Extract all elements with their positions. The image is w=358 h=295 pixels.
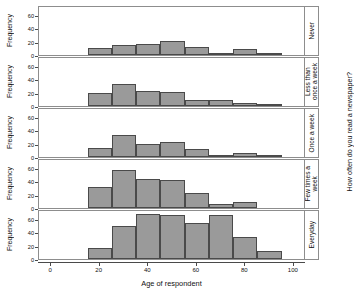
- x-axis-tick: [293, 262, 294, 266]
- y-axis-tick-label: 20: [28, 91, 34, 97]
- x-axis: 020406080100: [38, 262, 305, 274]
- y-axis-title: Frequency: [3, 210, 15, 260]
- facet-strip-everyday: Everyday: [305, 210, 319, 260]
- histogram-bar: [233, 153, 257, 157]
- y-axis-tick-label: 60: [28, 115, 34, 121]
- histogram-bar: [209, 100, 233, 106]
- facet-strip-label: Never: [308, 22, 315, 40]
- histogram-bar: [112, 135, 136, 157]
- histogram-bar: [136, 44, 160, 55]
- histogram-bar: [185, 100, 209, 106]
- histogram-bar: [88, 93, 112, 106]
- histogram-bar: [233, 103, 257, 106]
- histogram-bar: [112, 226, 136, 259]
- y-axis-title-text: Frequency: [6, 65, 13, 98]
- y-axis-tick-label: 20: [28, 142, 34, 148]
- x-axis-title: Age of respondent: [38, 279, 305, 288]
- y-axis-tick-label: 40: [28, 26, 34, 32]
- x-axis-tick-label: 80: [241, 267, 248, 273]
- histogram-bar: [160, 180, 184, 208]
- y-axis-title-text: Frequency: [6, 14, 13, 47]
- x-axis-tick: [99, 262, 100, 266]
- x-axis-tick-label: 0: [48, 267, 51, 273]
- panel-once-a-week: [38, 108, 305, 158]
- histogram-bar: [233, 202, 257, 208]
- facet-strip-label: Once a week: [308, 114, 315, 152]
- y-axis-title: Frequency: [3, 159, 15, 209]
- panel-few-times-a-week: [38, 159, 305, 209]
- plot-area: [39, 109, 304, 157]
- facet-strip-label: Few times a week: [305, 166, 319, 202]
- facet-strip-less-than-once-a-week: Less than once a week: [305, 57, 319, 107]
- histogram-bar: [160, 41, 184, 55]
- x-axis-tick-label: 20: [95, 267, 102, 273]
- histogram-bar: [185, 193, 209, 208]
- histogram-bar: [160, 215, 184, 259]
- histogram-bar: [136, 91, 160, 106]
- y-axis-tick-label: 60: [28, 166, 34, 172]
- y-axis-title: Frequency: [3, 6, 15, 56]
- histogram-bar: [112, 170, 136, 208]
- histogram-bar: [209, 53, 233, 55]
- panel-never: [38, 6, 305, 56]
- y-axis: 0204060: [24, 108, 38, 158]
- histogram-bar: [185, 47, 209, 55]
- panel-everyday: [38, 210, 305, 260]
- y-axis: 0204060: [24, 6, 38, 56]
- histogram-bar: [209, 215, 233, 259]
- histogram-bar: [112, 84, 136, 106]
- facet-strip-once-a-week: Once a week: [305, 108, 319, 158]
- histogram-bar: [88, 148, 112, 157]
- x-axis-tick-label: 60: [192, 267, 199, 273]
- x-axis-tick: [244, 262, 245, 266]
- histogram-bar: [112, 45, 136, 55]
- histogram-bar: [88, 187, 112, 208]
- y-axis-tick-label: 0: [31, 257, 34, 263]
- x-axis-tick: [147, 262, 148, 266]
- histogram-bar: [185, 223, 209, 259]
- histogram-bar: [160, 142, 184, 157]
- x-axis-tick: [196, 262, 197, 266]
- histogram-bar: [88, 48, 112, 55]
- facet-strip-title: How often do you read a newspaper?: [343, 6, 356, 258]
- x-axis-line: [38, 262, 305, 263]
- y-axis-tick-label: 60: [28, 13, 34, 19]
- y-axis-tick-label: 20: [28, 40, 34, 46]
- histogram-bar: [257, 104, 281, 106]
- histogram-bar: [209, 155, 233, 157]
- histogram-bar: [136, 214, 160, 259]
- histogram-bar: [257, 155, 281, 157]
- y-axis-tick: [35, 260, 38, 261]
- y-axis: 0204060: [24, 159, 38, 209]
- y-axis-tick-label: 40: [28, 230, 34, 236]
- facet-strip-label: Everyday: [308, 221, 315, 249]
- facet-strip-never: Never: [305, 6, 319, 56]
- x-axis-tick-label: 100: [288, 267, 298, 273]
- facet-strip-few-times-a-week: Few times a week: [305, 159, 319, 209]
- x-axis-tick-label: 40: [144, 267, 151, 273]
- histogram-bar: [88, 248, 112, 259]
- plot-area: [39, 211, 304, 259]
- panel-less-than-once-a-week: [38, 57, 305, 107]
- histogram-figure: How often do you read a newspaper? Frequ…: [0, 0, 358, 295]
- y-axis-title: Frequency: [3, 57, 15, 107]
- y-axis-title-text: Frequency: [6, 167, 13, 200]
- histogram-bar: [233, 49, 257, 55]
- y-axis-tick-label: 60: [28, 217, 34, 223]
- y-axis-tick-label: 20: [28, 244, 34, 250]
- y-axis-title: Frequency: [3, 108, 15, 158]
- plot-area: [39, 58, 304, 106]
- y-axis: 0204060: [24, 57, 38, 107]
- plot-area: [39, 160, 304, 208]
- histogram-bar: [209, 204, 233, 208]
- y-axis-title-text: Frequency: [6, 116, 13, 149]
- x-axis-tick: [50, 262, 51, 266]
- histogram-bar: [160, 92, 184, 106]
- y-axis-tick-label: 40: [28, 77, 34, 83]
- y-axis-tick-label: 60: [28, 64, 34, 70]
- facet-strip-label: Less than once a week: [305, 63, 319, 100]
- histogram-bar: [185, 149, 209, 157]
- y-axis: 0204060: [24, 210, 38, 260]
- y-axis-title-text: Frequency: [6, 218, 13, 251]
- histogram-bar: [257, 53, 281, 55]
